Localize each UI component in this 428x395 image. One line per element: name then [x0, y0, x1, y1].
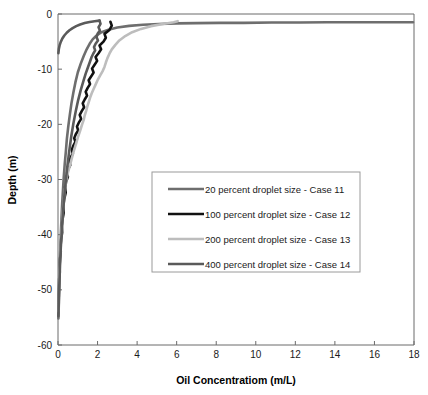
series-line	[58, 22, 413, 318]
x-tick-label: 16	[369, 349, 381, 360]
legend-label: 100 percent droplet size - Case 12	[205, 209, 350, 220]
x-tick-label: 10	[250, 349, 262, 360]
x-tick-label: 8	[213, 349, 219, 360]
oil-concentration-depth-chart: 024681012141618 0-10-20-30-40-50-60 20 p…	[0, 0, 428, 395]
x-tick-label: 12	[290, 349, 302, 360]
x-tick-label: 14	[329, 349, 341, 360]
y-tick-label: -20	[38, 119, 53, 130]
x-tick-label: 0	[55, 349, 61, 360]
x-tick-label: 4	[134, 349, 140, 360]
x-tick-label: 2	[95, 349, 101, 360]
x-axis-ticks: 024681012141618	[55, 341, 420, 360]
y-tick-label: -10	[38, 64, 53, 75]
y-axis-title: Depth (m)	[6, 156, 18, 205]
chart-legend: 20 percent droplet size - Case 11100 per…	[152, 172, 360, 272]
x-axis-title: Oil Concentratiom (m/L)	[176, 374, 296, 386]
chart-series-group	[58, 21, 413, 319]
y-tick-label: -60	[38, 340, 53, 351]
chart-svg: 024681012141618 0-10-20-30-40-50-60 20 p…	[0, 0, 428, 395]
x-tick-label: 6	[174, 349, 180, 360]
y-tick-label: 0	[46, 9, 52, 20]
legend-label: 20 percent droplet size - Case 11	[205, 184, 344, 195]
y-tick-label: -30	[38, 174, 53, 185]
y-tick-label: -40	[38, 229, 53, 240]
legend-label: 200 percent droplet size - Case 13	[205, 234, 350, 245]
y-tick-label: -50	[38, 284, 53, 295]
legend-label: 400 percent droplet size - Case 14	[205, 259, 350, 270]
x-tick-label: 18	[408, 349, 420, 360]
